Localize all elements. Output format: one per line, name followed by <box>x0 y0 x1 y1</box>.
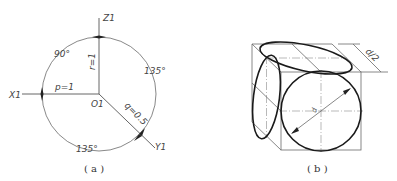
arrow-icon <box>41 87 44 94</box>
q-coefficient-label: q=0.5 <box>123 100 150 127</box>
arrow-icon <box>92 36 99 39</box>
arrow-icon <box>41 94 44 101</box>
y-axis-label: Y1 <box>155 142 166 152</box>
angle-xy-label: 135° <box>76 144 98 154</box>
arrow-icon <box>343 88 351 95</box>
x-axis-label: X1 <box>8 90 21 100</box>
caption-b: ( b ) <box>307 163 328 174</box>
p-coefficient-label: p=1 <box>54 82 74 92</box>
r-coefficient-label: r=1 <box>87 53 97 70</box>
z-axis-label: Z1 <box>102 13 115 23</box>
figure-b: d d/2 ( b ) <box>248 36 388 174</box>
caption-a: ( a ) <box>84 163 104 174</box>
origin-label: O1 <box>91 99 104 109</box>
dimension-d-half-label: d/2 <box>364 46 381 63</box>
diameter-label: d <box>310 107 319 114</box>
angle-zy-label: 135° <box>144 66 166 76</box>
figure-a: Z1 X1 Y1 O1 p=1 r=1 q=0.5 90° 135° 135° … <box>8 13 166 174</box>
arrow-icon <box>291 127 299 134</box>
arrow-icon <box>99 36 106 39</box>
diagram-canvas: Z1 X1 Y1 O1 p=1 r=1 q=0.5 90° 135° 135° … <box>0 0 397 181</box>
angle-xz-label: 90° <box>54 49 70 59</box>
